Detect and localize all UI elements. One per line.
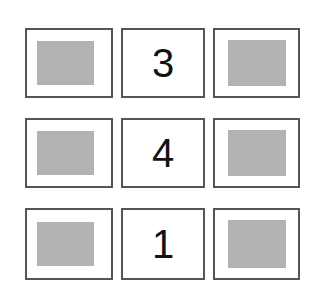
- image-digit-grid: 3 4 1: [25, 28, 300, 280]
- grid-cell-r2c2[interactable]: 4: [121, 118, 205, 188]
- digit-label: 4: [152, 133, 174, 173]
- grid-cell-r3c3[interactable]: [213, 208, 300, 280]
- grid-cell-r3c2[interactable]: 1: [121, 208, 205, 280]
- grid-cell-r1c1[interactable]: [25, 28, 113, 98]
- grid-cell-r2c3[interactable]: [213, 118, 300, 188]
- image-placeholder-icon: [228, 40, 286, 86]
- image-placeholder-icon: [37, 41, 94, 85]
- grid-cell-r1c3[interactable]: [213, 28, 300, 98]
- digit-label: 1: [152, 224, 174, 264]
- grid-cell-r1c2[interactable]: 3: [121, 28, 205, 98]
- image-placeholder-icon: [37, 222, 94, 267]
- image-placeholder-icon: [228, 130, 286, 176]
- image-placeholder-icon: [228, 220, 286, 268]
- grid-cell-r2c1[interactable]: [25, 118, 113, 188]
- image-placeholder-icon: [37, 131, 94, 175]
- digit-label: 3: [152, 43, 174, 83]
- grid-cell-r3c1[interactable]: [25, 208, 113, 280]
